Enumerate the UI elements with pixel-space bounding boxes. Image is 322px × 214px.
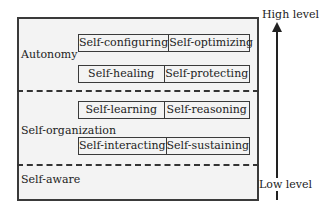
level-label-self-organization: Self-organization bbox=[21, 124, 116, 137]
capability-self-optimizing: Self-optimizing bbox=[168, 35, 253, 51]
capability-row-3: Self-learning Self-reasoning bbox=[78, 101, 250, 119]
capability-row-2: Self-healing Self-protecting bbox=[78, 65, 250, 83]
capability-self-healing: Self-healing bbox=[79, 66, 164, 82]
capability-row-4: Self-interacting Self-sustaining bbox=[78, 137, 250, 155]
axis-label-high: High level bbox=[262, 8, 319, 21]
capability-self-sustaining: Self-sustaining bbox=[166, 138, 250, 154]
level-label-autonomy: Autonomy bbox=[21, 48, 77, 61]
level-label-self-aware: Self-aware bbox=[21, 173, 80, 186]
capability-self-interacting: Self-interacting bbox=[79, 138, 166, 154]
capability-self-protecting: Self-protecting bbox=[164, 66, 250, 82]
level-axis-arrow bbox=[276, 30, 278, 200]
capability-self-configuring: Self-configuring bbox=[79, 35, 168, 51]
level-divider-autonomy-selforg bbox=[17, 90, 259, 92]
capability-self-learning: Self-learning bbox=[79, 102, 164, 118]
capability-self-reasoning: Self-reasoning bbox=[164, 102, 250, 118]
axis-label-low: Low level bbox=[259, 178, 312, 191]
level-divider-selforg-selfaware bbox=[17, 164, 259, 166]
capability-row-1: Self-configuring Self-optimizing bbox=[78, 34, 250, 52]
